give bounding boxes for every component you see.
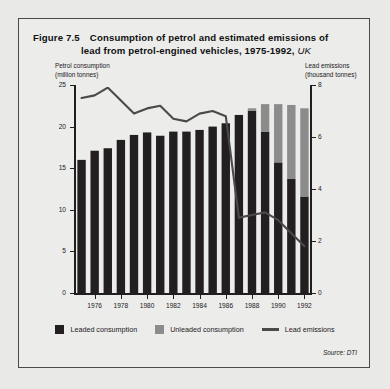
legend-line-swatch-icon: [262, 328, 279, 331]
chart-svg: [75, 87, 311, 293]
y-axis-right-tick: [312, 189, 316, 190]
figure-title-block: Figure 7.5Consumption of petrol and esti…: [33, 31, 359, 57]
legend-item-label: Lead emissions: [285, 325, 335, 334]
y-axis-left-tick: [70, 168, 74, 169]
x-axis-tick-label: 1988: [239, 302, 265, 309]
legend-item-label: Leaded consumption: [70, 325, 137, 334]
left-axis-caption-line-1: Petrol consumption: [55, 62, 110, 71]
x-axis-tick: [173, 295, 174, 299]
x-axis-tick-label: 1990: [265, 302, 291, 309]
x-axis-tick-label: 1984: [187, 302, 213, 309]
figure-title-part-1: Consumption of petrol and estimated emis…: [90, 32, 329, 43]
bar-unleaded: [274, 104, 282, 162]
right-axis-caption-line-1: Lead emissions: [305, 62, 357, 71]
y-axis-left-tick: [70, 210, 74, 211]
y-axis-right-tick: [312, 85, 316, 86]
chart-legend: Leaded consumptionUnleaded consumptionLe…: [19, 325, 371, 334]
legend-item-label: Unleaded consumption: [170, 325, 244, 334]
bars-group: [77, 104, 308, 293]
x-axis: [74, 293, 312, 295]
figure-title-line-1: Figure 7.5Consumption of petrol and esti…: [33, 31, 359, 44]
plot-area: [75, 87, 311, 293]
x-axis-tick: [226, 295, 227, 299]
legend-item[interactable]: Unleaded consumption: [155, 325, 244, 334]
y-axis-left-tick-label: 5: [52, 247, 66, 254]
left-axis-caption: Petrol consumption (million tonnes): [55, 62, 110, 79]
figure-panel: Figure 7.5Consumption of petrol and esti…: [18, 18, 370, 368]
right-axis-caption-line-2: (thousand tonnes): [305, 71, 357, 80]
left-axis-caption-line-2: (million tonnes): [55, 71, 110, 80]
bar-leaded: [235, 115, 243, 293]
bar-unleaded: [261, 104, 269, 131]
y-axis-right-tick: [312, 137, 316, 138]
x-axis-tick: [147, 295, 148, 299]
lead-emissions-line: [82, 88, 305, 247]
bar-leaded: [222, 123, 230, 293]
x-axis-tick-label: 1978: [108, 302, 134, 309]
y-axis-left-tick-label: 0: [52, 289, 66, 296]
x-axis-tick: [95, 295, 96, 299]
bar-leaded: [169, 132, 177, 293]
x-axis-tick: [304, 295, 305, 299]
x-axis-tick: [252, 295, 253, 299]
bar-leaded: [208, 127, 216, 293]
bar-leaded: [182, 132, 190, 293]
bar-unleaded: [287, 105, 295, 179]
y-axis-left-tick: [70, 127, 74, 128]
figure-title-line-2: lead from petrol-engined vehicles, 1975-…: [33, 44, 359, 57]
y-axis-right-tick-label: 6: [318, 133, 332, 140]
figure-number: Figure 7.5: [33, 32, 80, 43]
y-axis-left-tick-label: 15: [52, 164, 66, 171]
bar-unleaded: [248, 108, 256, 111]
y-axis-right-tick-label: 4: [318, 185, 332, 192]
source-note: Source: DTI: [323, 349, 357, 356]
x-axis-tick-label: 1986: [213, 302, 239, 309]
x-axis-tick: [200, 295, 201, 299]
bar-leaded: [77, 160, 85, 293]
y-axis-right-tick: [312, 241, 316, 242]
y-axis-left-tick: [70, 251, 74, 252]
bar-leaded: [117, 140, 125, 293]
lead-emissions-line-group: [82, 88, 305, 247]
y-axis-right-tick-label: 8: [318, 81, 332, 88]
legend-square-swatch-icon: [55, 325, 64, 334]
bar-leaded: [274, 162, 282, 293]
y-axis-right-tick: [312, 293, 316, 294]
y-axis-left-tick: [70, 85, 74, 86]
bar-leaded: [248, 111, 256, 293]
figure-title-part-2: lead from petrol-engined vehicles, 1975-…: [81, 45, 295, 56]
right-axis-caption: Lead emissions (thousand tonnes): [305, 62, 357, 79]
x-axis-tick: [121, 295, 122, 299]
y-axis-left-tick-label: 20: [52, 123, 66, 130]
bar-unleaded: [300, 108, 308, 196]
x-axis-tick: [278, 295, 279, 299]
y-axis-right-tick-label: 0: [318, 289, 332, 296]
y-axis-left-tick-label: 25: [52, 81, 66, 88]
y-axis-left-tick: [70, 293, 74, 294]
x-axis-tick-label: 1992: [291, 302, 317, 309]
legend-square-swatch-icon: [155, 325, 164, 334]
figure-region: UK: [297, 45, 311, 56]
bar-leaded: [143, 132, 151, 293]
bar-leaded: [195, 130, 203, 293]
bar-leaded: [104, 148, 112, 293]
x-axis-tick-label: 1982: [160, 302, 186, 309]
bar-leaded: [156, 136, 164, 293]
bar-leaded: [130, 135, 138, 293]
legend-item[interactable]: Lead emissions: [262, 325, 335, 334]
y-axis-left-tick-label: 10: [52, 206, 66, 213]
x-axis-tick-label: 1976: [82, 302, 108, 309]
y-axis-right-tick-label: 2: [318, 237, 332, 244]
bar-leaded: [90, 151, 98, 293]
x-axis-tick-label: 1980: [134, 302, 160, 309]
legend-item[interactable]: Leaded consumption: [55, 325, 137, 334]
